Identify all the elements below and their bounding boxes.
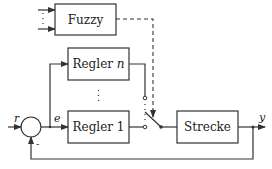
regler-n-output-line: [129, 64, 145, 96]
strecke-block: Strecke: [177, 111, 238, 143]
regler-n-index: n: [117, 57, 125, 71]
error-label: e: [54, 112, 61, 125]
strecke-label: Strecke: [184, 120, 231, 134]
fuzzy-inputs: [38, 10, 55, 29]
fuzzy-block: Fuzzy: [55, 4, 116, 35]
fuzzy-label: Fuzzy: [68, 13, 104, 27]
regler-n-label: Regler: [72, 57, 116, 71]
reference-label: r: [14, 112, 20, 125]
regler-1-block: Regler 1: [68, 111, 129, 143]
output-label: y: [258, 111, 266, 124]
svg-text:Regler n: Regler n: [72, 57, 124, 71]
control-block-diagram: Fuzzy Regler n Regler 1 - r e: [0, 0, 272, 169]
feedback-minus-sign: -: [36, 138, 39, 149]
regler-1-label: Regler 1: [73, 120, 125, 134]
regler-n-block: Regler n: [68, 48, 129, 80]
